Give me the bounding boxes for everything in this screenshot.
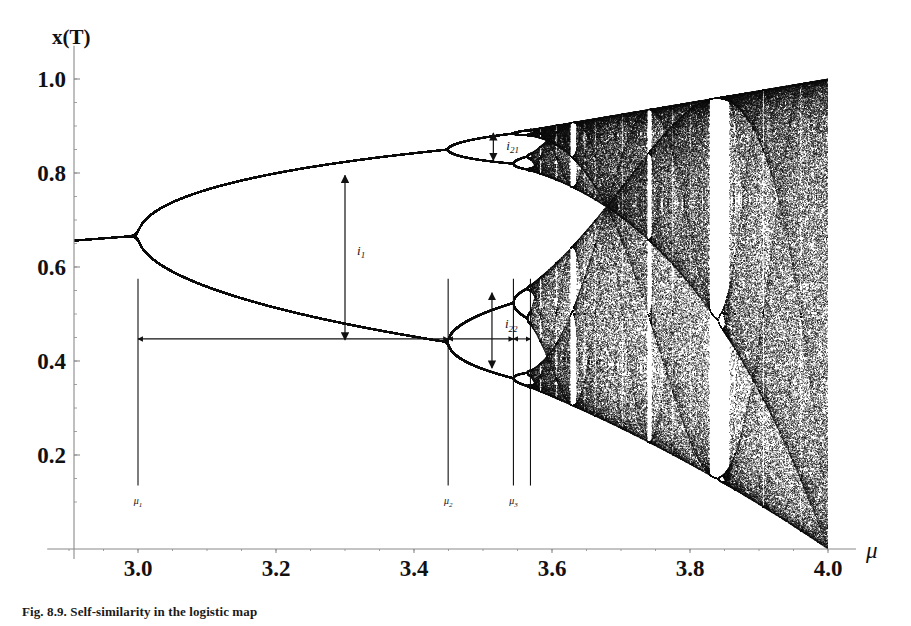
y-axis-tick-label: 0.2	[37, 443, 66, 468]
y-axis-tick-label: 0.6	[37, 255, 66, 280]
y-axis-tick-label: 0.8	[37, 161, 66, 186]
attractor-point-cloud	[0, 0, 911, 626]
x-axis-tick-label: 3.6	[538, 556, 567, 581]
x-axis-tick-label: 3.2	[262, 556, 291, 581]
bifurcation-diagram-plot: 3.03.23.43.63.84.01.00.80.60.40.2 i1i21i…	[0, 0, 911, 626]
x-axis-tick-label: 3.0	[124, 556, 153, 581]
x-axis-tick-label: 3.8	[676, 556, 705, 581]
y-axis-title: x(T)	[52, 25, 91, 49]
attractor-raster	[0, 0, 911, 626]
x-axis-tick-label: 4.0	[814, 556, 843, 581]
figure-caption: Fig. 8.9. Self-similarity in the logisti…	[22, 604, 722, 626]
x-axis-tick-label: 3.4	[400, 556, 429, 581]
y-axis-tick-label: 1.0	[37, 67, 66, 92]
y-axis-tick-label: 0.4	[37, 349, 66, 374]
x-axis-title: μ	[865, 538, 878, 563]
figure-root: 3.03.23.43.63.84.01.00.80.60.40.2 i1i21i…	[0, 0, 911, 626]
